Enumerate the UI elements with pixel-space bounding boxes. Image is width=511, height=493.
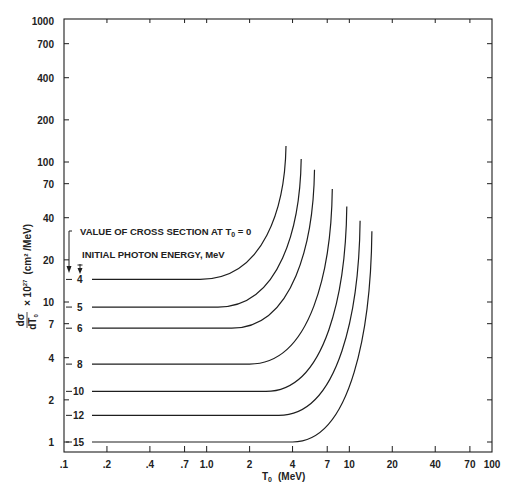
curve-label-5: 5: [77, 302, 83, 313]
svg-text:dT0: dT0: [27, 314, 39, 330]
curve-label-12: 12: [73, 410, 85, 421]
x-tick-label: 20: [387, 459, 399, 470]
bracket-arrow-value: [69, 231, 72, 270]
x-tick-label: .1: [60, 459, 69, 470]
x-tick-label: 7: [324, 459, 330, 470]
x-tick-label: .7: [180, 459, 189, 470]
x-tick-label: 10: [344, 459, 356, 470]
x-tick-label: .4: [146, 459, 155, 470]
annotation-initial-energy: INITIAL PHOTON ENERGY, MeV: [82, 249, 225, 260]
energy-curves: [92, 146, 372, 442]
y-tick-label: 4: [48, 353, 54, 364]
svg-text:dσ: dσ: [15, 313, 26, 326]
y-tick-label: 10: [43, 297, 55, 308]
x-tick-label: 100: [484, 459, 501, 470]
x-tick-label: 4: [290, 459, 296, 470]
cross-section-chart: 1247102040701002004007001000 .1.2.4.71.0…: [0, 0, 511, 493]
x-tick-label: .2: [103, 459, 112, 470]
y-tick-label: 20: [43, 255, 55, 266]
arrowhead-energy: [78, 268, 83, 274]
y-tick-label: 100: [37, 157, 54, 168]
svg-text:× 1027(cm² /MeV): × 1027(cm² /MeV): [22, 224, 33, 306]
curve-label-6: 6: [77, 323, 83, 334]
y-tick-label: 1000: [32, 16, 55, 27]
y-tick-label: 40: [43, 213, 55, 224]
y-tick-label: 2: [48, 395, 54, 406]
curve-15-mev: [92, 231, 372, 442]
x-tick-label: 70: [464, 459, 476, 470]
curve-label-4: 4: [77, 274, 83, 285]
y-tick-label: 400: [37, 73, 54, 84]
annotation: VALUE OF CROSS SECTION AT T0 = 0 INITIAL…: [67, 226, 252, 274]
x-tick-label: 40: [430, 459, 442, 470]
x-tick-label: 2: [247, 459, 253, 470]
annotation-value-at-zero: VALUE OF CROSS SECTION AT T0 = 0: [80, 226, 251, 238]
x-axis-title: T0(MeV): [262, 471, 305, 483]
y-tick-label: 1: [48, 437, 54, 448]
curve-label-10: 10: [73, 386, 85, 397]
y-tick-label: 700: [37, 39, 54, 50]
y-tick-label: 200: [37, 115, 54, 126]
x-tick-label: 1.0: [200, 459, 214, 470]
curve-labels: 4568101215: [66, 274, 85, 448]
y-tick-label: 7: [48, 319, 54, 330]
arrowhead-value: [67, 266, 72, 273]
curve-label-15: 15: [73, 437, 85, 448]
x-axis-ticks: .1.2.4.71.024710204070100: [60, 19, 501, 470]
y-tick-label: 70: [43, 179, 55, 190]
y-axis-title: dσ dT0 × 1027(cm² /MeV): [15, 224, 39, 330]
curve-label-8: 8: [77, 359, 83, 370]
